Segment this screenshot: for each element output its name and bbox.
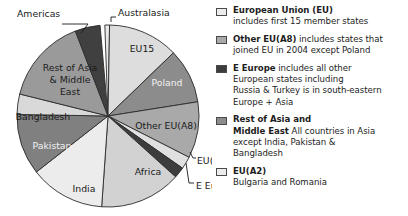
legend-entry-title: Rest of Asia and [233, 114, 311, 124]
legend-entry-eu-a2[interactable]: EU(A2)Bulgaria and Romania [216, 166, 408, 189]
pie-label-pakistan: Pakistan [33, 140, 72, 151]
legend-entry-text: Other EU(A8) includes states thatjoined … [233, 34, 408, 57]
legend-entry-line: Russia & Turkey is in south-eastern [233, 85, 382, 95]
legend-entry-line: European states including [233, 74, 344, 84]
legend-entry-body-2: All countries in Asia [289, 126, 375, 136]
legend-entry-line: except India, Pakistan & [233, 137, 335, 147]
legend-entry-text: Rest of Asia andMiddle East All countrie… [233, 114, 408, 160]
legend-entry-title-2: Middle East [233, 126, 289, 136]
pie-label-australasia: Australasia [118, 7, 170, 18]
pie-label-bangladesh: Bangladesh [16, 111, 71, 122]
legend-entry-line: Europe + Asia [233, 97, 293, 107]
leader-line-eu-a2- [190, 152, 196, 158]
pie-chart-svg: AustralasiaEU15PolandOther EU(A8)EU(A2)E… [0, 0, 212, 216]
legend-entry-line: joined EU in 2004 except Poland [233, 45, 370, 55]
leader-line-australasia [111, 17, 116, 22]
legend-entry-body: includes all other [276, 63, 352, 73]
pie-label-poland: Poland [151, 77, 182, 88]
legend-swatch-icon [216, 8, 227, 16]
legend-swatch-icon [216, 168, 227, 176]
legend-entry-title: E Europe [233, 63, 276, 73]
legend-swatch-icon [216, 36, 227, 44]
legend-entry-other-eu-a8[interactable]: Other EU(A8) includes states thatjoined … [216, 34, 408, 57]
legend-swatch-icon [216, 65, 227, 73]
legend-entry-rest-of-asia-and[interactable]: Rest of Asia andMiddle East All countrie… [216, 114, 408, 160]
pie-label-americas: Americas [17, 8, 60, 19]
legend-entry-line: Bangladesh [233, 148, 283, 158]
pie-label-e-europe: E Europe [196, 180, 212, 191]
legend-entry-text: E Europe includes all otherEuropean stat… [233, 63, 408, 109]
leader-line-e-europe [186, 163, 194, 183]
pie-label-other-eu-a8: Other EU(A8) [135, 120, 197, 131]
legend-entry-text: EU(A2)Bulgaria and Romania [233, 166, 408, 189]
legend: European Union (EU)includes first 15 mem… [216, 5, 408, 215]
legend-entry-title: Other EU(A8) [233, 34, 296, 44]
legend-entry-text: European Union (EU)includes first 15 mem… [233, 5, 408, 28]
legend-entry-title: European Union (EU) [233, 5, 333, 15]
legend-entry-european-union-eu[interactable]: European Union (EU)includes first 15 mem… [216, 5, 408, 28]
legend-entry-body: includes states that [296, 34, 382, 44]
pie-chart-panel: AustralasiaEU15PolandOther EU(A8)EU(A2)E… [0, 0, 212, 216]
pie-label-africa: Africa [135, 166, 162, 177]
pie-label-eu-a2: EU(A2) [197, 155, 212, 166]
legend-entry-e-europe[interactable]: E Europe includes all otherEuropean stat… [216, 63, 408, 109]
legend-entry-line: Bulgaria and Romania [233, 177, 327, 187]
legend-entry-line: includes first 15 member states [233, 16, 368, 26]
pie-label-india: India [73, 183, 96, 194]
pie-chart-figure: AustralasiaEU15PolandOther EU(A8)EU(A2)E… [0, 0, 408, 216]
legend-entry-title: EU(A2) [233, 166, 266, 176]
pie-label-eu15: EU15 [130, 43, 155, 54]
legend-swatch-icon [216, 117, 227, 125]
